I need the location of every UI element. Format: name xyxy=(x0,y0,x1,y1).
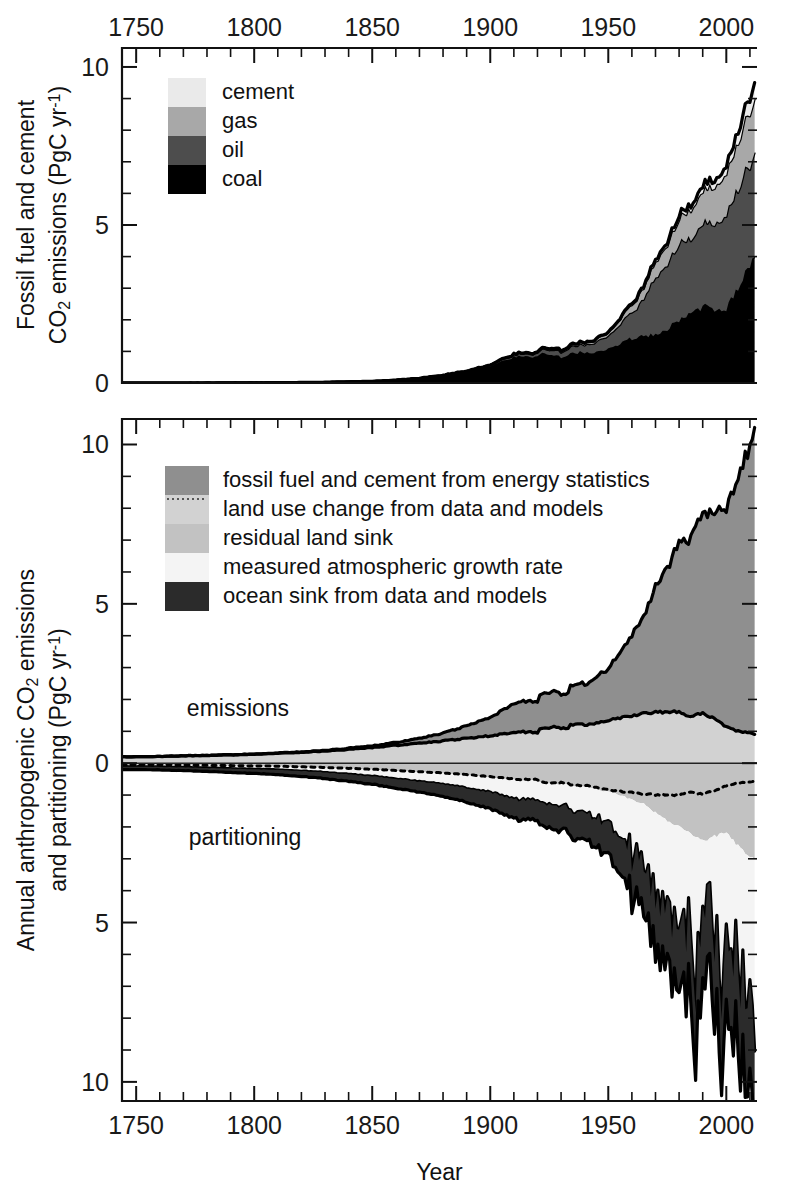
annotation-partitioning: partitioning xyxy=(189,824,302,850)
annotation-emissions: emissions xyxy=(187,695,289,721)
bottom-xtick-label-1800: 1800 xyxy=(226,1111,282,1139)
top-legend-label-oil: oil xyxy=(222,137,244,162)
bottom-legend-label-4: ocean sink from data and models xyxy=(223,583,547,608)
bottom-ytick-label-4: 10 xyxy=(81,1068,109,1096)
bottom-legend-label-2: residual land sink xyxy=(223,525,394,550)
bottom-xtick-label-1750: 1750 xyxy=(108,1111,164,1139)
top-legend-swatch-oil xyxy=(168,136,206,165)
top-legend-swatch-gas xyxy=(168,107,206,136)
top-stacked-areas xyxy=(122,83,755,383)
bottom-legend-swatch-0 xyxy=(165,466,209,495)
bottom-legend-swatch-2 xyxy=(165,524,209,553)
bottom-ylabel-line2: and partitioning (PgC yr-1) xyxy=(45,628,71,892)
bottom-legend-swatch-4 xyxy=(165,582,209,611)
bottom-legend: fossil fuel and cement from energy stati… xyxy=(165,466,650,611)
bottom-xtick-label-2000: 2000 xyxy=(698,1111,754,1139)
top-legend-label-cement: cement xyxy=(222,79,294,104)
top-xtick-label-1950: 1950 xyxy=(580,13,636,41)
bottom-ytick-label-3: 5 xyxy=(95,909,109,937)
bottom-legend-label-1: land use change from data and models xyxy=(223,496,603,521)
top-xtick-label-1850: 1850 xyxy=(344,13,400,41)
top-xtick-label-1900: 1900 xyxy=(462,13,518,41)
top-ylabel-line1: Fossil fuel and cement xyxy=(13,99,39,330)
bottom-legend-label-3: measured atmospheric growth rate xyxy=(223,554,563,579)
bottom-xtick-label-1900: 1900 xyxy=(462,1111,518,1139)
figure-svg: 0510175018001850190019502000Fossil fuel … xyxy=(0,0,786,1197)
x-axis-title: Year xyxy=(416,1159,463,1185)
bottom-ylabel-line1: Annual anthropogenic CO2 emissions xyxy=(13,569,41,951)
top-legend-label-gas: gas xyxy=(222,108,257,133)
top-ylabel-line2: CO2 emissions (PgC yr-1) xyxy=(45,86,73,344)
bottom-xtick-label-1950: 1950 xyxy=(580,1111,636,1139)
top-ytick-label-5: 5 xyxy=(95,211,109,239)
figure-container: 0510175018001850190019502000Fossil fuel … xyxy=(0,0,786,1197)
top-legend-label-coal: coal xyxy=(222,166,262,191)
bottom-xtick-label-1850: 1850 xyxy=(344,1111,400,1139)
top-ytick-label-0: 0 xyxy=(95,369,109,397)
top-xtick-label-1800: 1800 xyxy=(226,13,282,41)
bottom-ytick-label-0: 10 xyxy=(81,430,109,458)
top-ytick-label-10: 10 xyxy=(81,53,109,81)
panel-bottom-partitioning-chart: 1050510175018001850190019502000YearAnnua… xyxy=(13,419,757,1185)
bottom-stacked-areas xyxy=(122,427,755,1142)
bottom-legend-label-0: fossil fuel and cement from energy stati… xyxy=(223,467,650,492)
top-xtick-label-1750: 1750 xyxy=(108,13,164,41)
top-legend-swatch-coal xyxy=(168,165,206,194)
panel-top-fossil-fuel-chart: 0510175018001850190019502000Fossil fuel … xyxy=(13,13,757,397)
bottom-legend-swatch-3 xyxy=(165,553,209,582)
top-legend: cementgasoilcoal xyxy=(168,78,294,194)
bottom-ytick-label-2: 0 xyxy=(95,749,109,777)
top-xtick-label-2000: 2000 xyxy=(698,13,754,41)
top-legend-swatch-cement xyxy=(168,78,206,107)
bottom-ytick-label-1: 5 xyxy=(95,590,109,618)
